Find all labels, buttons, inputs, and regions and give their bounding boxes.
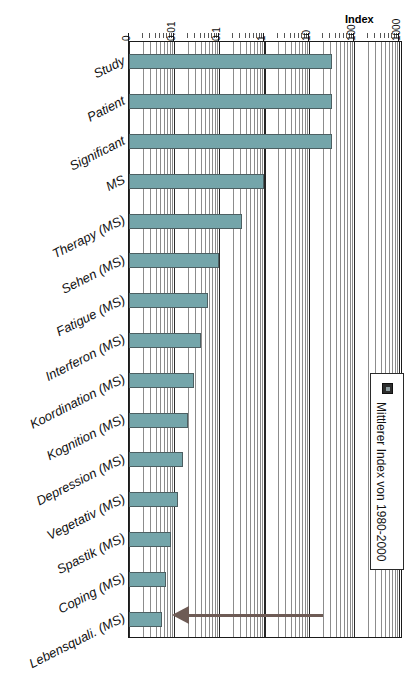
bar (129, 572, 166, 587)
bar (129, 174, 264, 189)
axis-tick (290, 33, 291, 38)
bar (129, 214, 242, 229)
axis-tick (284, 33, 285, 38)
axis-tick (335, 33, 336, 38)
axis-tick (339, 33, 340, 38)
axis-tick (208, 33, 209, 38)
axis-tick (388, 33, 389, 38)
bar (129, 532, 171, 547)
axis-tick-label: 10 (301, 30, 312, 41)
bar (129, 373, 194, 388)
axis-tick (322, 33, 323, 38)
plot-area (128, 41, 402, 638)
axis-tick (384, 33, 385, 38)
bar (129, 413, 188, 428)
axis-tick-label: 1000 (391, 19, 402, 41)
axis-tick (380, 33, 381, 38)
square-marker-icon (382, 383, 393, 394)
axis-tick (159, 33, 160, 38)
axis-tick (245, 33, 246, 38)
arrow-shaft (188, 614, 323, 617)
axis-tick (249, 33, 250, 38)
axis-tick (329, 33, 330, 38)
bar (129, 94, 332, 109)
axis-tick (194, 33, 195, 38)
axis-tick-label: 0.1 (211, 27, 222, 41)
axis-tick (232, 33, 233, 38)
axis-tick (253, 33, 254, 38)
axis-tick (163, 33, 164, 38)
bar (129, 293, 208, 308)
bar (129, 134, 332, 149)
bar (129, 492, 178, 507)
bar (129, 452, 183, 467)
axis-tick (298, 33, 299, 38)
axis-tick (367, 33, 368, 38)
axis-tick (277, 33, 278, 38)
axis-tick (200, 33, 201, 38)
axis-tick (142, 33, 143, 38)
axis-tick (155, 33, 156, 38)
axis-tick-label: 100 (346, 24, 357, 41)
bar (129, 333, 201, 348)
bar (129, 253, 219, 268)
bar (129, 54, 332, 69)
axis-tick (204, 33, 205, 38)
axis-title-index: Index (345, 13, 374, 25)
axis-tick (374, 33, 375, 38)
axis-tick (149, 33, 150, 38)
axis-tick (294, 33, 295, 38)
axis-tick (343, 33, 344, 38)
bar (129, 612, 162, 627)
axis-tick-label: 0.01 (166, 22, 177, 41)
legend-label: Mittlerer Index von 1980-2000 (374, 402, 388, 561)
axis-tick (239, 33, 240, 38)
bars-layer (129, 42, 401, 637)
axis-tick (187, 33, 188, 38)
arrow-head (172, 606, 189, 624)
legend: Mittlerer Index von 1980-2000 (370, 373, 404, 570)
